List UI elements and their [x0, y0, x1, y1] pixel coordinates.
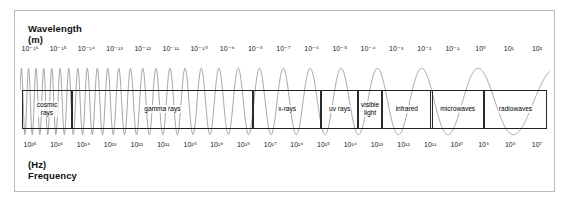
wavelength-tick-5: 10⁻¹¹: [163, 45, 179, 52]
band-cosmic-rays: cosmic rays: [22, 90, 72, 128]
frequency-tick-1: 10²⁶: [50, 141, 63, 148]
wavelength-tick-3: 10⁻¹³: [106, 45, 122, 52]
wavelength-tick-9: 10⁻⁷: [276, 45, 290, 52]
wavelength-tick-7: 10⁻⁹: [220, 45, 235, 52]
frequency-tick-12: 10¹⁴: [344, 141, 357, 148]
frequency-tick-5: 10²¹: [157, 141, 169, 148]
frequency-axis-unit: (Hz): [28, 159, 46, 170]
wavelength-axis-unit: (m): [28, 34, 43, 45]
wavelength-tick-2: 10⁻¹⁴: [78, 45, 95, 52]
frequency-tick-4: 10²²: [131, 141, 143, 148]
band-label-gamma-rays: gamma rays: [143, 105, 181, 113]
wavelength-tick-12: 10⁻⁴: [361, 45, 376, 52]
wavelength-tick-6: 10⁻¹⁰: [190, 45, 207, 52]
frequency-tick-6: 10²⁰: [184, 141, 197, 148]
wavelength-tick-16: 10⁰: [475, 45, 486, 52]
frequency-tick-19: 10⁷: [532, 141, 542, 148]
frequency-tick-0: 10²⁵: [23, 141, 36, 148]
band-gamma-rays: gamma rays: [72, 90, 253, 128]
wavelength-tick-4: 10⁻¹²: [134, 45, 150, 52]
frequency-tick-2: 10²⁴: [77, 141, 90, 148]
wavelength-tick-18: 10²: [532, 45, 542, 52]
wavelength-axis-title: Wavelength: [28, 23, 82, 34]
band-microwaves: microwaves: [432, 90, 485, 128]
band-infrared: infrared: [382, 90, 431, 128]
frequency-axis-title: Frequency: [28, 170, 77, 181]
frequency-tick-13: 10¹³: [371, 141, 383, 148]
band-label-radiowaves: radiowaves: [498, 105, 533, 113]
frequency-tick-7: 10¹⁹: [210, 141, 223, 148]
frequency-tick-17: 10⁹: [478, 141, 489, 148]
band-visible-light: visible light: [358, 90, 382, 128]
band-label-cosmic-rays: cosmic rays: [36, 101, 59, 116]
wavelength-tick-1: 10⁻¹⁵: [50, 45, 67, 52]
frequency-tick-9: 10¹⁷: [264, 141, 277, 148]
wavelength-tick-11: 10⁻⁵: [332, 45, 347, 52]
band-uv-rays: uv rays: [321, 90, 358, 128]
wavelength-tick-15: 10⁻¹: [445, 45, 459, 52]
spectrum-band-strip: cosmic raysgamma raysx-raysuv raysvisibl…: [22, 90, 547, 128]
frequency-tick-18: 10⁸: [505, 141, 516, 148]
band-label-infrared: infrared: [395, 105, 419, 113]
band-label-uv-rays: uv rays: [328, 105, 351, 113]
band-label-x-rays: x-rays: [277, 105, 297, 113]
band-x-rays: x-rays: [253, 90, 321, 128]
wavelength-tick-14: 10⁻²: [417, 45, 431, 52]
wavelength-tick-0: 10⁻¹⁶: [22, 45, 39, 52]
frequency-tick-14: 10¹²: [397, 141, 409, 148]
frequency-tick-8: 10¹⁸: [237, 141, 250, 148]
spectrum-bottom-rule: [22, 128, 547, 129]
frequency-tick-15: 10¹¹: [424, 141, 436, 148]
band-radiowaves: radiowaves: [484, 90, 547, 128]
frequency-tick-3: 10²³: [104, 141, 116, 148]
frequency-tick-11: 10¹⁵: [317, 141, 330, 148]
electromagnetic-spectrum-figure: Wavelength (m) 10⁻¹⁶10⁻¹⁵10⁻¹⁴10⁻¹³10⁻¹²…: [0, 0, 569, 202]
wavelength-tick-8: 10⁻⁸: [248, 45, 263, 52]
wavelength-tick-17: 10¹: [504, 45, 514, 52]
band-label-microwaves: microwaves: [439, 105, 476, 113]
frequency-tick-10: 10¹⁶: [290, 141, 303, 148]
wavelength-tick-13: 10⁻³: [389, 45, 403, 52]
frequency-tick-16: 10¹⁰: [450, 141, 463, 148]
wavelength-tick-10: 10⁻⁶: [304, 45, 319, 52]
band-label-visible-light: visible light: [360, 101, 380, 116]
